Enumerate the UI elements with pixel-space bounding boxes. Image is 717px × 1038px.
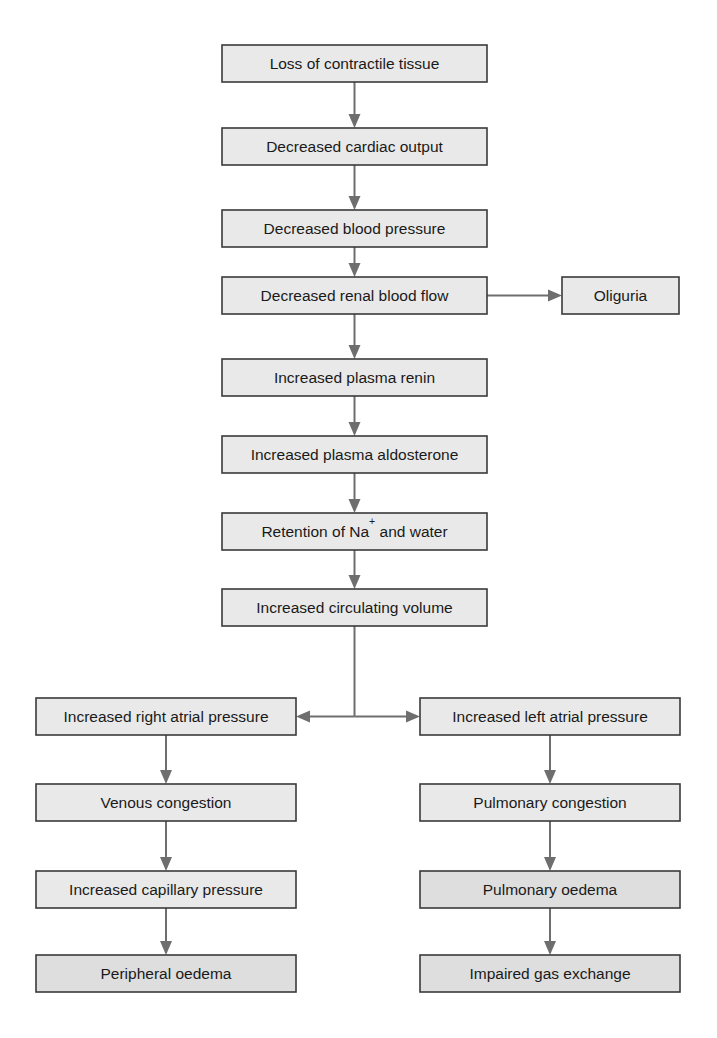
node-increased-left-atrial-pressure[interactable]: Increased left atrial pressure <box>420 698 680 735</box>
node-label: Decreased blood pressure <box>264 220 446 237</box>
node-label: Increased right atrial pressure <box>63 708 268 725</box>
node-label: Impaired gas exchange <box>469 965 630 982</box>
node-increased-right-atrial-pressure[interactable]: Increased right atrial pressure <box>36 698 296 735</box>
arrow-left-atrial-to-pulmonary-congestion <box>544 735 556 784</box>
branch-circulating-volume-to-atria <box>296 626 420 723</box>
arrow-cardiac-output-to-blood-pressure <box>349 165 361 210</box>
node-peripheral-oedema[interactable]: Peripheral oedema <box>36 955 296 992</box>
arrow-retention-to-circulating-volume <box>349 550 361 589</box>
node-decreased-cardiac-output[interactable]: Decreased cardiac output <box>222 128 487 165</box>
node-label: Venous congestion <box>101 794 232 811</box>
node-oliguria[interactable]: Oliguria <box>562 277 679 314</box>
arrow-venous-congestion-to-capillary-pressure <box>160 821 172 871</box>
node-label: Increased plasma aldosterone <box>251 446 459 463</box>
node-label: Decreased renal blood flow <box>261 287 450 304</box>
arrow-aldosterone-to-retention <box>349 473 361 513</box>
node-label: Increased circulating volume <box>256 599 452 616</box>
arrow-renal-flow-to-oliguria <box>487 290 562 302</box>
node-pulmonary-congestion[interactable]: Pulmonary congestion <box>420 784 680 821</box>
node-label: Increased left atrial pressure <box>452 708 648 725</box>
node-increased-circulating-volume[interactable]: Increased circulating volume <box>222 589 487 626</box>
node-label: Oliguria <box>594 287 648 304</box>
node-label-tail: and water <box>375 523 447 540</box>
node-label: Peripheral oedema <box>101 965 232 982</box>
node-label: Decreased cardiac output <box>266 138 443 155</box>
node-retention-of-sodium-and-water[interactable]: Retention of Na+ and water <box>222 513 487 550</box>
node-layer: Loss of contractile tissue Decreased car… <box>36 45 680 992</box>
flowchart-canvas: Loss of contractile tissue Decreased car… <box>0 0 717 1038</box>
node-increased-plasma-aldosterone[interactable]: Increased plasma aldosterone <box>222 436 487 473</box>
arrow-loss-to-cardiac-output <box>349 82 361 128</box>
node-label: Increased plasma renin <box>274 369 435 386</box>
arrow-renin-to-aldosterone <box>349 396 361 436</box>
node-label: Pulmonary oedema <box>483 881 618 898</box>
node-increased-capillary-pressure[interactable]: Increased capillary pressure <box>36 871 296 908</box>
node-label: Increased capillary pressure <box>69 881 263 898</box>
node-venous-congestion[interactable]: Venous congestion <box>36 784 296 821</box>
node-pulmonary-oedema[interactable]: Pulmonary oedema <box>420 871 680 908</box>
node-loss-of-contractile-tissue[interactable]: Loss of contractile tissue <box>222 45 487 82</box>
arrow-right-atrial-to-venous-congestion <box>160 735 172 784</box>
node-label: Loss of contractile tissue <box>270 55 440 72</box>
node-increased-plasma-renin[interactable]: Increased plasma renin <box>222 359 487 396</box>
node-impaired-gas-exchange[interactable]: Impaired gas exchange <box>420 955 680 992</box>
node-label: Pulmonary congestion <box>473 794 626 811</box>
arrow-renal-flow-to-plasma-renin <box>349 314 361 359</box>
node-decreased-blood-pressure[interactable]: Decreased blood pressure <box>222 210 487 247</box>
node-label-main: Retention of Na <box>261 523 369 540</box>
arrow-blood-pressure-to-renal-flow <box>349 247 361 277</box>
arrow-capillary-pressure-to-peripheral-oedema <box>160 908 172 955</box>
arrow-pulmonary-congestion-to-pulmonary-oedema <box>544 821 556 871</box>
node-decreased-renal-blood-flow[interactable]: Decreased renal blood flow <box>222 277 487 314</box>
arrow-pulmonary-oedema-to-impaired-gas-exchange <box>544 908 556 955</box>
